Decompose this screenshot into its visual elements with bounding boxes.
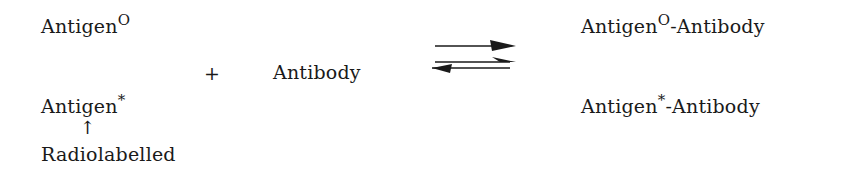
unlabelled-complex: AntigenO-Antibody [581, 15, 765, 39]
antigen-label: Antigen [581, 15, 658, 37]
unlabelled-antigen: AntigenO [41, 15, 130, 39]
unlabelled-marker: O [118, 11, 131, 29]
antibody: Antibody [273, 61, 361, 83]
labelled-complex: Antigen*-Antibody [581, 95, 760, 119]
antigen-label: Antigen [581, 95, 658, 117]
radiolabelled-annotation: Radiolabelled [41, 143, 176, 165]
radiolabel-marker: * [118, 91, 126, 109]
unlabelled-marker: O [658, 11, 671, 29]
antigen-label: Antigen [41, 15, 118, 37]
equilibrium-arrows-icon [430, 38, 520, 78]
antibody-suffix: -Antibody [665, 95, 759, 117]
antibody-suffix: -Antibody [670, 15, 764, 37]
up-arrow-icon: ↑ [80, 119, 95, 137]
radiolabel-marker: * [658, 91, 666, 109]
antigen-label: Antigen [41, 95, 118, 117]
labelled-antigen: Antigen* [41, 95, 125, 119]
plus-sign: + [204, 62, 220, 84]
